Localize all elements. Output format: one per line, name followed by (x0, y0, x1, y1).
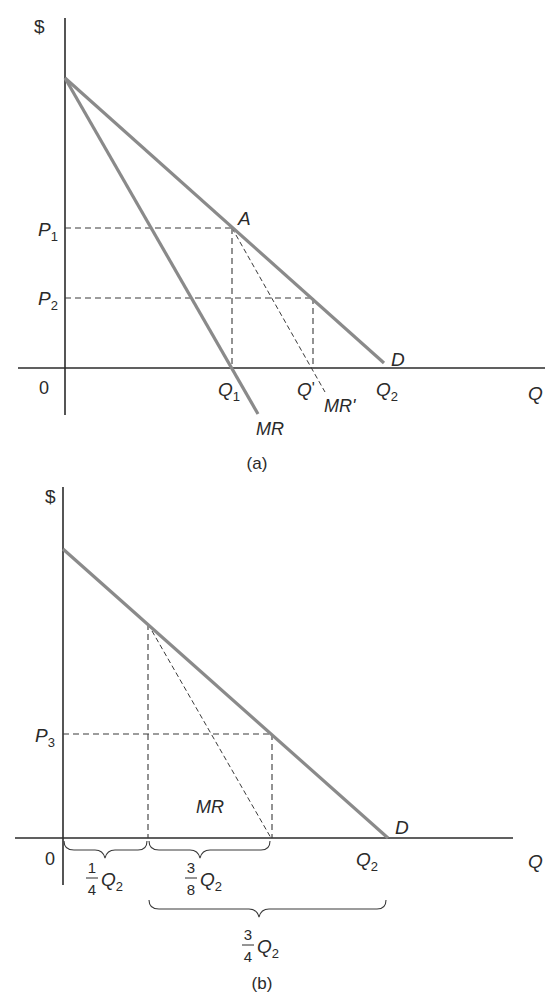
panel-b-brace-quarter (64, 841, 147, 858)
panel-a-mr-prime-label: MR' (324, 396, 356, 416)
panel-b-caption: (b) (252, 974, 273, 993)
panel-b-brace-three-quarters (149, 900, 386, 917)
panel-a-mr-line (65, 78, 258, 414)
panel-a-x-axis-label: Q (528, 383, 543, 404)
panel-a-point-a-label: A (237, 208, 251, 229)
panel-a-origin-label: 0 (39, 378, 49, 398)
svg-text:4: 4 (244, 948, 252, 965)
panel-b-p3-label: P3 (35, 725, 55, 750)
panel-a-q1-label: Q1 (218, 379, 240, 404)
panel-a-mr-label: MR (256, 419, 284, 439)
panel-a: $ 0 Q P1 P2 Q1 Q' Q2 A D MR MR' (a) (18, 16, 545, 473)
panel-b-y-axis-label: $ (45, 486, 56, 507)
panel-a-demand-line (65, 78, 384, 363)
svg-text:Q2: Q2 (200, 869, 222, 894)
panel-a-y-axis-label: $ (34, 16, 45, 37)
svg-text:3: 3 (244, 926, 252, 943)
svg-text:8: 8 (187, 881, 195, 898)
panel-b-label-three-eighths-q2: 3 8 Q2 (185, 859, 222, 898)
panel-a-demand-label: D (391, 349, 405, 370)
svg-text:3: 3 (187, 859, 195, 876)
figure-canvas: $ 0 Q P1 P2 Q1 Q' Q2 A D MR MR' (a) $ 0 … (0, 0, 552, 1005)
panel-a-caption: (a) (247, 454, 268, 473)
panel-b-label-three-quarters-q2: 3 4 Q2 (242, 926, 279, 965)
panel-b-label-quarter-q2: 1 4 Q2 (86, 859, 123, 898)
panel-b-demand-line (63, 549, 388, 838)
svg-text:1: 1 (88, 859, 96, 876)
panel-b-mr-label: MR (196, 797, 224, 817)
svg-text:4: 4 (88, 881, 96, 898)
panel-a-qprime-label: Q' (297, 379, 315, 400)
panel-b-x-axis-label: Q (528, 851, 543, 872)
panel-b-brace-three-eighths (149, 841, 270, 858)
panel-a-p2-label: P2 (38, 288, 58, 313)
svg-text:Q2: Q2 (101, 869, 123, 894)
panel-b-demand-label: D (395, 817, 409, 838)
panel-a-q2-label: Q2 (376, 379, 398, 404)
panel-b-origin-label: 0 (45, 849, 55, 869)
panel-b-q2-label: Q2 (356, 849, 378, 874)
svg-text:Q2: Q2 (257, 936, 279, 961)
panel-a-p1-label: P1 (38, 219, 58, 244)
panel-b: $ 0 Q P3 Q2 D MR 1 4 Q2 3 8 Q2 3 4 Q2 (b… (15, 486, 543, 993)
